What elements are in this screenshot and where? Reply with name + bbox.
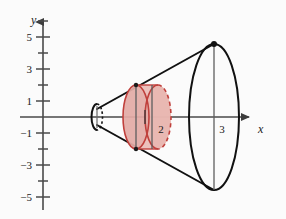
- y-label-3: 3: [27, 63, 33, 75]
- x-axis-label: x: [257, 122, 264, 136]
- x-label-2: 2: [158, 123, 164, 135]
- y-axis-label: y: [30, 13, 37, 27]
- y-label-5: 5: [27, 31, 33, 43]
- graph-figure: 5 3 1 −1 −3 −5 y x: [0, 0, 286, 219]
- x-label-3: 3: [219, 123, 225, 135]
- outer-ellipse-group: [189, 41, 239, 190]
- disk-bottom-corner-dot: [134, 147, 138, 151]
- y-label-neg5: −5: [20, 191, 32, 203]
- representative-disk-group: [123, 83, 171, 151]
- y-label-1: 1: [27, 95, 33, 107]
- y-label-neg1: −1: [20, 127, 32, 139]
- outer-ellipse-vertex-dot: [211, 41, 217, 47]
- disk-top-corner-dot: [134, 83, 138, 87]
- y-label-neg3: −3: [20, 159, 32, 171]
- plot-canvas: 5 3 1 −1 −3 −5 y x: [0, 0, 286, 219]
